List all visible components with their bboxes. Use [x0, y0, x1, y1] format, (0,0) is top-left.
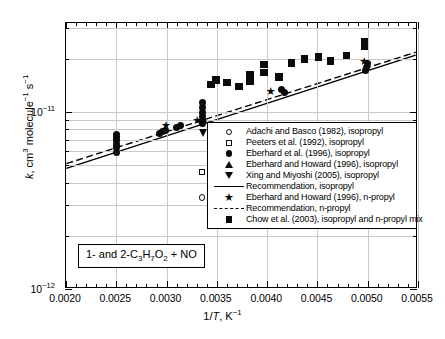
- legend-item[interactable]: ★Eberhard and Howard (1996), n-propyl: [212, 192, 412, 203]
- legend: Adachi and Basco (1982), isopropylPeeter…: [207, 122, 417, 229]
- x-tick-minor: [388, 22, 389, 26]
- x-tick-minor: [277, 284, 278, 288]
- legend-label: Peeters et al. (1992), isopropyl: [246, 137, 364, 148]
- data-point: [275, 73, 283, 81]
- y-gridline: [66, 112, 416, 113]
- data-point: [327, 57, 335, 65]
- legend-marker-tri-up-icon: [212, 159, 246, 170]
- x-tick-minor: [247, 22, 248, 26]
- x-tick-minor: [327, 284, 328, 288]
- x-tick-minor: [136, 22, 137, 26]
- data-point: [113, 131, 120, 138]
- x-tick-major: [317, 281, 318, 288]
- x-tick-minor: [146, 22, 147, 26]
- y-tick-minor: [65, 120, 69, 121]
- y-tick-label: 10−12: [0, 281, 55, 295]
- legend-item[interactable]: Peeters et al. (1992), isopropyl: [212, 137, 412, 148]
- y-tick-major: [65, 112, 72, 113]
- x-tick-minor: [177, 284, 178, 288]
- legend-marker-star-icon: ★: [212, 192, 246, 203]
- x-tick-minor: [297, 22, 298, 26]
- x-tick-major: [66, 281, 67, 288]
- legend-item[interactable]: Chow et al. (2003), isopropyl and n-prop…: [212, 214, 412, 225]
- y-tick-minor: [65, 165, 69, 166]
- legend-marker-line-dashed-icon: [212, 203, 246, 214]
- legend-item[interactable]: Recommendation, isopropyl: [212, 181, 412, 192]
- y-tick-major: [410, 112, 417, 113]
- x-tick-minor: [207, 22, 208, 26]
- legend-marker-circle-open-icon: [212, 126, 246, 137]
- legend-item[interactable]: Eberhard et al. (1996), isopropyl: [212, 148, 412, 159]
- y-tick-minor: [65, 28, 69, 29]
- x-tick-minor: [146, 284, 147, 288]
- y-tick-minor: [65, 140, 69, 141]
- data-point: [113, 149, 120, 156]
- x-axis-title: 1/T, K−1: [0, 308, 445, 322]
- legend-item[interactable]: Xing and Miyoshi (2005), isopropyl: [212, 170, 412, 181]
- x-tick-minor: [398, 22, 399, 26]
- x-tick-minor: [338, 22, 339, 26]
- x-tick-minor: [96, 284, 97, 288]
- y-tick-minor: [65, 205, 69, 206]
- data-point: [288, 59, 296, 67]
- x-tick-minor: [157, 22, 158, 26]
- legend-item[interactable]: Eberhard and Howard (1996), isopropyl: [212, 159, 412, 170]
- x-tick-major: [267, 281, 268, 288]
- x-tick-major: [116, 281, 117, 288]
- data-point: ★: [161, 120, 171, 131]
- marker-glyph: ★: [224, 192, 234, 203]
- x-tick-minor: [287, 22, 288, 26]
- x-tick-minor: [197, 22, 198, 26]
- data-point: ★: [359, 56, 369, 67]
- data-point: [260, 69, 268, 77]
- data-point: [199, 129, 207, 137]
- x-tick-minor: [388, 284, 389, 288]
- x-tick-minor: [348, 22, 349, 26]
- y-tick-minor: [65, 129, 69, 130]
- marker-glyph: [225, 161, 233, 168]
- x-tick-minor: [86, 284, 87, 288]
- data-point: [301, 55, 309, 63]
- x-tick-minor: [348, 284, 349, 288]
- legend-label: Xing and Miyoshi (2005), isopropyl: [246, 170, 379, 181]
- reaction-annotation: 1- and 2-C3H7O2 + NO: [78, 244, 205, 268]
- y-tick-minor: [65, 59, 69, 60]
- x-tick-minor: [96, 22, 97, 26]
- x-tick-minor: [126, 284, 127, 288]
- x-tick-minor: [398, 284, 399, 288]
- data-point: [315, 53, 323, 61]
- legend-item[interactable]: Adachi and Basco (1982), isopropyl: [212, 126, 412, 137]
- x-tick-minor: [307, 284, 308, 288]
- y-tick-minor: [65, 151, 69, 152]
- marker-glyph: [214, 186, 244, 187]
- x-tick-minor: [358, 284, 359, 288]
- x-tick-minor: [297, 284, 298, 288]
- x-tick-minor: [327, 22, 328, 26]
- x-tick-major: [418, 281, 419, 288]
- legend-item[interactable]: Recommendation, n-propyl: [212, 203, 412, 214]
- x-tick-minor: [237, 284, 238, 288]
- x-tick-major: [217, 281, 218, 288]
- x-tick-minor: [177, 22, 178, 26]
- x-tick-minor: [307, 22, 308, 26]
- legend-label: Chow et al. (2003), isopropyl and n-prop…: [246, 214, 423, 225]
- legend-label: Recommendation, n-propyl: [246, 203, 350, 214]
- x-tick-major: [167, 281, 168, 288]
- x-tick-minor: [136, 284, 137, 288]
- data-point: ★: [192, 115, 202, 126]
- legend-label: Eberhard et al. (1996), isopropyl: [246, 148, 370, 159]
- legend-marker-tri-dn-icon: [212, 170, 246, 181]
- x-tick-minor: [227, 284, 228, 288]
- y-tick-minor: [413, 236, 417, 237]
- x-gridline: [418, 23, 419, 287]
- x-tick-minor: [76, 284, 77, 288]
- legend-label: Recommendation, isopropyl: [246, 181, 354, 192]
- data-point: [223, 79, 231, 87]
- y-tick-minor: [413, 59, 417, 60]
- data-point: [199, 194, 206, 201]
- x-tick-minor: [277, 22, 278, 26]
- x-tick-minor: [257, 284, 258, 288]
- x-tick-minor: [157, 284, 158, 288]
- legend-label: Adachi and Basco (1982), isopropyl: [246, 126, 383, 137]
- y-gridline: [66, 236, 416, 237]
